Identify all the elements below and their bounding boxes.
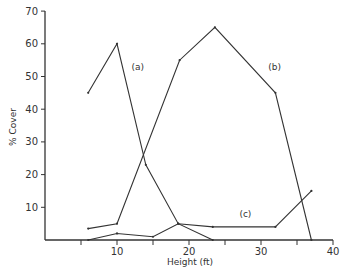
series-label: (c) xyxy=(239,209,251,219)
y-tick-label: 70 xyxy=(25,6,38,17)
series-line xyxy=(88,27,311,240)
data-point xyxy=(87,92,89,94)
y-tick-label: 50 xyxy=(25,71,38,82)
data-point xyxy=(87,227,89,229)
x-tick-label: 40 xyxy=(327,246,340,257)
y-axis-title: % Cover xyxy=(8,108,18,146)
series-label: (a) xyxy=(131,62,144,72)
data-point xyxy=(214,26,216,28)
data-point xyxy=(177,223,179,225)
series-line xyxy=(88,191,311,240)
x-tick-label: 10 xyxy=(111,246,124,257)
x-tick-label: 20 xyxy=(183,246,196,257)
data-point xyxy=(274,92,276,94)
y-tick-label: 10 xyxy=(25,202,38,213)
y-tick-label: 40 xyxy=(25,104,38,115)
x-axis-title: Height (ft) xyxy=(167,257,213,267)
x-tick-label: 30 xyxy=(255,246,268,257)
data-point xyxy=(212,239,214,241)
data-point xyxy=(212,226,214,228)
data-point xyxy=(310,190,312,192)
data-point xyxy=(116,232,118,234)
series-label: (b) xyxy=(268,62,281,72)
y-tick-label: 30 xyxy=(25,136,38,147)
axes: 1020304050607010203040 xyxy=(25,6,339,257)
data-point xyxy=(87,239,89,241)
series-line xyxy=(88,44,213,240)
line-chart: 1020304050607010203040 (a)(b)(c) Height … xyxy=(0,0,349,275)
data-point xyxy=(179,59,181,61)
data-point xyxy=(116,43,118,45)
y-tick-label: 20 xyxy=(25,169,38,180)
y-tick-label: 60 xyxy=(25,38,38,49)
data-point xyxy=(145,164,147,166)
data-point xyxy=(274,226,276,228)
data-point xyxy=(116,223,118,225)
series-group: (a)(b)(c) xyxy=(87,26,312,241)
data-point xyxy=(152,236,154,238)
data-point xyxy=(310,239,312,241)
